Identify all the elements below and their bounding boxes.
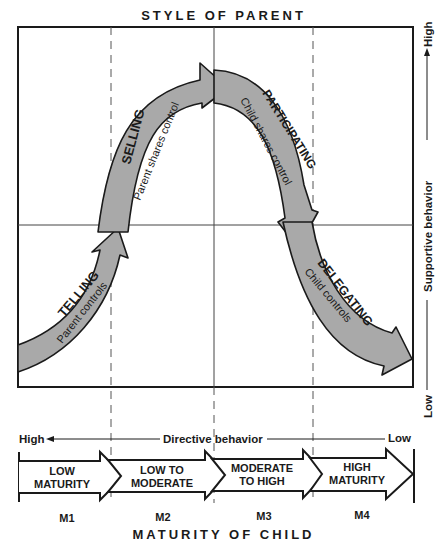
supportive-axis-arrowhead (424, 48, 430, 56)
maturity-m4-line2: MATURITY (322, 474, 392, 487)
directive-high-label: High (19, 433, 45, 445)
maturity-stage-m1: LOW MATURITY (24, 465, 100, 491)
maturity-stage-m2: LOW TO MODERATE (120, 464, 204, 490)
supportive-high-label: High (422, 21, 434, 47)
directive-low-label: Low (388, 432, 411, 444)
directive-axis-label: Directive behavior (163, 433, 263, 445)
maturity-of-child-title: MATURITY OF CHILD (0, 527, 447, 542)
maturity-stage-m3: MODERATE TO HIGH (222, 462, 302, 488)
directive-axis-arrowhead (46, 436, 54, 442)
maturity-code-m1: M1 (47, 512, 87, 524)
maturity-m4-line1: HIGH (322, 461, 392, 474)
maturity-code-m2: M2 (143, 511, 183, 523)
supportive-axis-label: Supportive behavior (422, 180, 434, 292)
maturity-m3-line1: MODERATE (222, 462, 302, 475)
maturity-m1-line2: MATURITY (24, 478, 100, 491)
maturity-code-m3: M3 (244, 510, 284, 522)
maturity-m1-line1: LOW (24, 465, 100, 478)
maturity-m2-line2: MODERATE (120, 477, 204, 490)
maturity-code-m4: M4 (342, 509, 382, 521)
maturity-m2-line1: LOW TO (120, 464, 204, 477)
maturity-m3-line2: TO HIGH (222, 475, 302, 488)
supportive-low-label: Low (422, 395, 434, 418)
maturity-stage-m4: HIGH MATURITY (322, 461, 392, 487)
